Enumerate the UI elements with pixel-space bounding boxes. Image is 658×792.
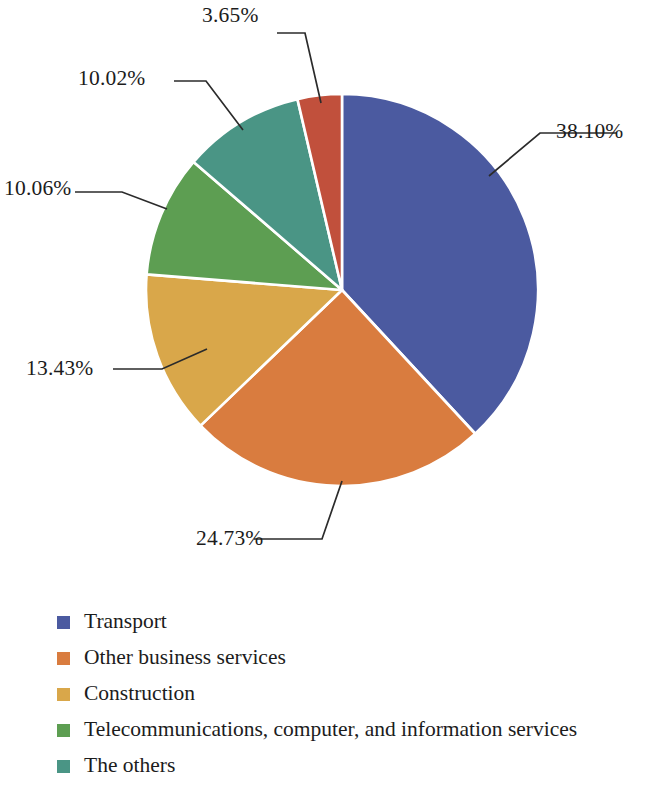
pie-slice-group: [146, 94, 538, 486]
leader-line-10-06: [75, 192, 167, 209]
legend-item[interactable]: Other business services: [57, 640, 655, 676]
legend-swatch-icon: [57, 616, 70, 629]
legend-item-label: Telecommunications, computer, and inform…: [84, 719, 577, 741]
legend-item[interactable]: Transport: [57, 604, 655, 640]
chart-legend: TransportOther business servicesConstruc…: [57, 604, 655, 784]
legend-swatch-icon: [57, 724, 70, 737]
pie-label-telecommunications: 10.06%: [4, 178, 72, 200]
legend-item-label: The others: [84, 755, 175, 777]
pie-label-construction: 13.43%: [26, 358, 94, 380]
pie-label-unlabeled-slice: 3.65%: [202, 5, 259, 27]
leader-line-3-65: [277, 33, 321, 103]
legend-item[interactable]: Construction: [57, 676, 655, 712]
legend-item-label: Transport: [84, 611, 167, 633]
legend-item[interactable]: Telecommunications, computer, and inform…: [57, 712, 655, 748]
legend-item-label: Other business services: [84, 647, 286, 669]
leader-line-24: [254, 481, 342, 539]
pie-label-other-business-services: 24.73%: [196, 528, 264, 550]
legend-swatch-icon: [57, 688, 70, 701]
leader-line-10-02: [174, 81, 243, 130]
legend-item[interactable]: The others: [57, 748, 655, 784]
legend-swatch-icon: [57, 652, 70, 665]
legend-item-label: Construction: [84, 683, 195, 705]
pie-label-transport: 38.10%: [556, 121, 624, 143]
legend-swatch-icon: [57, 760, 70, 773]
pie-plot-area: 38.10% 24.73% 13.43% 10.06% 10.02% 3.65%: [0, 0, 658, 580]
pie-chart-figure: 38.10% 24.73% 13.43% 10.06% 10.02% 3.65%…: [0, 0, 658, 792]
pie-label-the-others: 10.02%: [78, 68, 146, 90]
